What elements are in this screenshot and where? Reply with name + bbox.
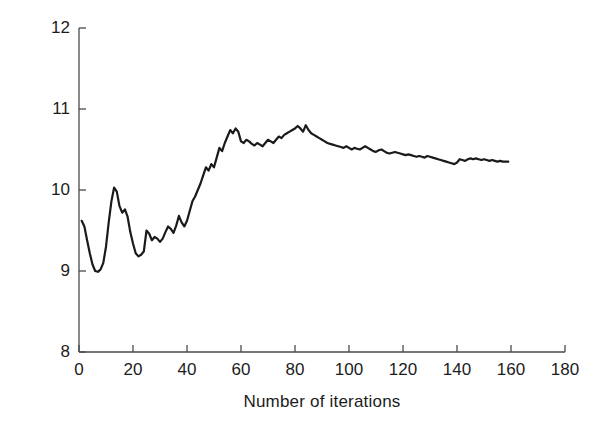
y-tick-label: 9 — [61, 261, 70, 281]
y-tick-marks — [79, 28, 86, 352]
x-tick-label: 20 — [124, 360, 143, 380]
x-tick-label: 100 — [335, 360, 363, 380]
y-tick-label: 12 — [51, 18, 70, 38]
x-axis-title: Number of iterations — [79, 392, 565, 412]
x-tick-marks — [79, 345, 565, 352]
x-tick-label: 140 — [443, 360, 471, 380]
y-tick-label: 11 — [52, 99, 70, 119]
axis-lines — [79, 28, 565, 352]
x-tick-label: 0 — [74, 360, 83, 380]
x-tick-label: 80 — [286, 360, 305, 380]
data-series-line — [82, 125, 509, 272]
x-tick-label: 160 — [497, 360, 525, 380]
chart-figure: 020406080100120140160180 89101112 Number… — [0, 0, 610, 430]
x-tick-label: 180 — [551, 360, 579, 380]
x-tick-label: 60 — [232, 360, 251, 380]
x-tick-label: 40 — [178, 360, 197, 380]
y-tick-label: 8 — [61, 342, 70, 362]
x-tick-label: 120 — [389, 360, 417, 380]
y-tick-label: 10 — [51, 180, 70, 200]
